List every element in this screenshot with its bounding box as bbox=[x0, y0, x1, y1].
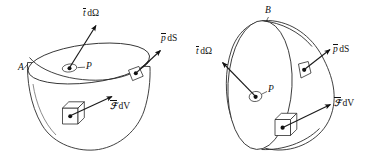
right-point-p-label: P bbox=[268, 85, 274, 95]
left-traction-differential: dΩ bbox=[87, 8, 99, 18]
right-body-group bbox=[223, 17, 335, 151]
left-traction-vector-symbol: t bbox=[83, 8, 86, 18]
left-traction-label: tdΩ bbox=[83, 8, 99, 18]
right-surface-force-differential: dS bbox=[339, 44, 349, 54]
left-body-group bbox=[24, 26, 161, 151]
left-surface-force-vector-symbol: p bbox=[161, 33, 166, 43]
left-surface-label: A bbox=[18, 63, 24, 73]
continuum-body-figure: tdΩ A P pdS ℱdV B tdΩ P pdS ℱdV bbox=[0, 0, 382, 167]
left-body-force-label: ℱdV bbox=[110, 101, 130, 111]
right-traction-differential: dΩ bbox=[200, 46, 212, 56]
right-traction-vector-symbol: t bbox=[196, 46, 199, 56]
left-point-p-label: P bbox=[86, 62, 92, 72]
right-cube-center-dot bbox=[281, 126, 285, 130]
left-body-force-vector-symbol: ℱ bbox=[110, 101, 117, 111]
left-volume-cube bbox=[63, 102, 85, 124]
right-surface-label: B bbox=[265, 6, 271, 16]
left-body-force-differential: dV bbox=[119, 101, 131, 111]
left-surface-force-label: pdS bbox=[161, 33, 177, 43]
right-body-force-label: ℱdV bbox=[334, 98, 354, 108]
right-volume-cube bbox=[275, 113, 297, 135]
right-body-force-vector-symbol: ℱ bbox=[334, 98, 341, 108]
figure-canvas bbox=[0, 0, 382, 167]
right-traction-label: tdΩ bbox=[196, 46, 212, 56]
right-surface-force-label: pdS bbox=[333, 44, 349, 54]
left-surface-force-differential: dS bbox=[167, 33, 177, 43]
right-body-force-differential: dV bbox=[343, 98, 355, 108]
right-surface-force-vector-symbol: p bbox=[333, 44, 338, 54]
